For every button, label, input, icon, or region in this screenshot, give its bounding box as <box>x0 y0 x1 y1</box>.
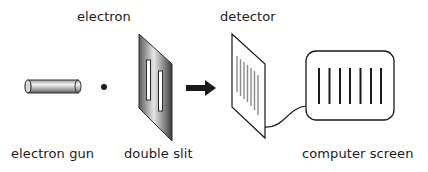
electron-label: electron <box>77 9 131 24</box>
computer-screen-label: computer screen <box>302 146 414 161</box>
electron-dot-icon <box>101 84 107 90</box>
detector-label: detector <box>220 9 276 24</box>
electron-gun-label: electron gun <box>11 146 94 161</box>
cable-line <box>265 106 306 127</box>
double-slit-plate-icon <box>139 34 172 141</box>
detector-plate-icon <box>232 34 265 138</box>
electron-gun-icon <box>25 80 81 93</box>
double-slit-label: double slit <box>124 146 193 161</box>
computer-screen-icon <box>306 51 394 120</box>
arrow-right-icon <box>186 80 216 96</box>
